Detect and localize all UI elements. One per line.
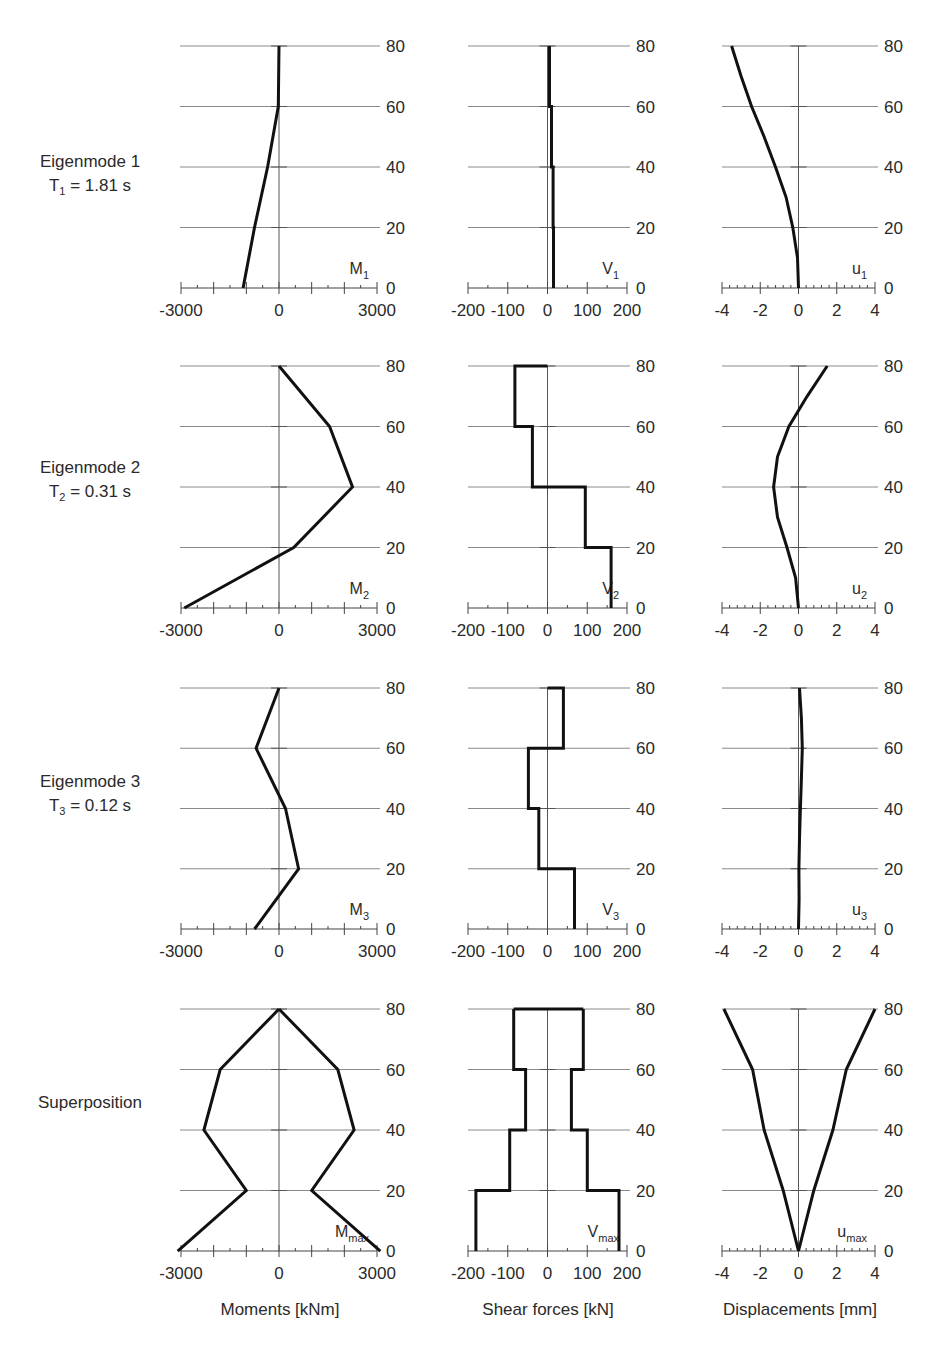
x-tick-label: 0 [794, 621, 803, 640]
y-tick-label: 60 [636, 418, 655, 437]
x-tick-label: -100 [491, 1264, 525, 1283]
x-tick-label: 0 [543, 942, 552, 961]
row-title: Eigenmode 3 [5, 770, 175, 794]
panel-M3: 020406080-300003000M3 [159, 679, 405, 961]
y-tick-label: 40 [636, 800, 655, 819]
y-tick-label: 40 [636, 478, 655, 497]
y-tick-label: 60 [386, 1061, 405, 1080]
y-tick-label: 40 [386, 800, 405, 819]
x-tick-label: -200 [451, 1264, 485, 1283]
y-tick-label: 40 [884, 1121, 903, 1140]
y-tick-label: 80 [884, 1000, 903, 1019]
x-tick-label: 0 [794, 942, 803, 961]
y-tick-label: 60 [884, 418, 903, 437]
y-tick-label: 80 [636, 37, 655, 56]
y-tick-label: 40 [884, 478, 903, 497]
y-tick-label: 0 [386, 920, 395, 939]
y-tick-label: 0 [386, 279, 395, 298]
panel-label: u3 [852, 901, 867, 922]
y-tick-label: 0 [884, 599, 893, 618]
y-tick-label: 0 [884, 1242, 893, 1261]
series-V1 [550, 46, 554, 288]
panel-Mmax: 020406080-300003000Mmax [159, 1000, 405, 1283]
y-tick-label: 20 [884, 539, 903, 558]
panel-umax: 020406080-4-2024umax [714, 1000, 902, 1283]
x-tick-label: 0 [274, 301, 283, 320]
panel-M1: 020406080-300003000M1 [159, 37, 405, 320]
row-label-eigenmode-3: Eigenmode 3 T3 = 0.12 s [5, 770, 175, 823]
panel-label: u1 [852, 260, 867, 281]
column-title-displacements: Displacements [mm] [700, 1300, 900, 1320]
row-title: Eigenmode 1 [5, 150, 175, 174]
y-tick-label: 0 [636, 920, 645, 939]
y-tick-label: 40 [884, 800, 903, 819]
x-tick-label: 3000 [358, 942, 396, 961]
y-tick-label: 60 [386, 739, 405, 758]
x-tick-label: 0 [274, 621, 283, 640]
panel-M2: 020406080-300003000M2 [159, 357, 405, 640]
row-label-eigenmode-1: Eigenmode 1 T1 = 1.81 s [5, 150, 175, 203]
x-tick-label: 0 [794, 301, 803, 320]
x-tick-label: 2 [832, 301, 841, 320]
y-tick-label: 80 [636, 1000, 655, 1019]
x-tick-label: -3000 [159, 942, 202, 961]
y-tick-label: 60 [636, 1061, 655, 1080]
y-tick-label: 0 [884, 920, 893, 939]
column-title-moments: Moments [kNm] [180, 1300, 380, 1320]
x-tick-label: -2 [753, 621, 768, 640]
x-tick-label: -3000 [159, 621, 202, 640]
row-period: T2 = 0.31 s [5, 480, 175, 509]
x-tick-label: 4 [870, 942, 879, 961]
panel-label: umax [837, 1223, 867, 1244]
x-tick-label: -3000 [159, 301, 202, 320]
y-tick-label: 60 [636, 739, 655, 758]
x-tick-label: -200 [451, 301, 485, 320]
y-tick-label: 40 [386, 158, 405, 177]
series-u3 [799, 688, 803, 929]
y-tick-label: 0 [636, 279, 645, 298]
y-tick-label: 80 [386, 1000, 405, 1019]
y-tick-label: 20 [386, 1182, 405, 1201]
y-tick-label: 80 [884, 357, 903, 376]
y-tick-label: 80 [636, 357, 655, 376]
y-tick-label: 0 [636, 1242, 645, 1261]
panel-label: Vmax [588, 1223, 620, 1244]
panel-label: V3 [602, 901, 619, 922]
x-tick-label: -2 [753, 301, 768, 320]
panel-Vmax: 020406080-200-1000100200Vmax [451, 1000, 655, 1283]
y-tick-label: 40 [386, 1121, 405, 1140]
column-title-shear: Shear forces [kN] [448, 1300, 648, 1320]
x-tick-label: 0 [543, 1264, 552, 1283]
x-tick-label: -4 [714, 301, 729, 320]
y-tick-label: 20 [636, 219, 655, 238]
row-title: Superposition [5, 1091, 175, 1115]
x-tick-label: 4 [870, 1264, 879, 1283]
y-tick-label: 80 [636, 679, 655, 698]
x-tick-label: 0 [794, 1264, 803, 1283]
x-tick-label: -200 [451, 942, 485, 961]
x-tick-label: -4 [714, 1264, 729, 1283]
y-tick-label: 20 [636, 1182, 655, 1201]
x-tick-label: 0 [543, 621, 552, 640]
y-tick-label: 60 [636, 98, 655, 117]
y-tick-label: 0 [884, 279, 893, 298]
y-tick-label: 60 [884, 98, 903, 117]
panel-label: M3 [350, 901, 369, 922]
y-tick-label: 20 [636, 860, 655, 879]
x-tick-label: 0 [274, 1264, 283, 1283]
row-period: T1 = 1.81 s [5, 174, 175, 203]
x-tick-label: 0 [543, 301, 552, 320]
y-tick-label: 80 [386, 37, 405, 56]
panel-label: M1 [350, 260, 369, 281]
x-tick-label: -100 [491, 301, 525, 320]
x-tick-label: -200 [451, 621, 485, 640]
x-tick-label: -100 [491, 942, 525, 961]
x-tick-label: -4 [714, 942, 729, 961]
x-tick-label: 4 [870, 301, 879, 320]
y-tick-label: 20 [884, 1182, 903, 1201]
row-period: T3 = 0.12 s [5, 794, 175, 823]
x-tick-label: 0 [274, 942, 283, 961]
panel-V3: 020406080-200-1000100200V3 [451, 679, 655, 961]
x-tick-label: 200 [613, 1264, 641, 1283]
x-tick-label: 200 [613, 942, 641, 961]
